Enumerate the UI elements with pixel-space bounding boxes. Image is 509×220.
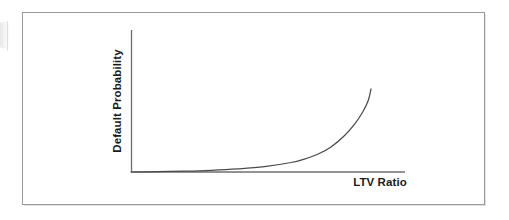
- default-probability-curve: [131, 89, 371, 172]
- x-axis-label: LTV Ratio: [353, 176, 407, 188]
- y-axis-label: Default Probability: [111, 49, 123, 153]
- chart-plot-area: [0, 0, 509, 220]
